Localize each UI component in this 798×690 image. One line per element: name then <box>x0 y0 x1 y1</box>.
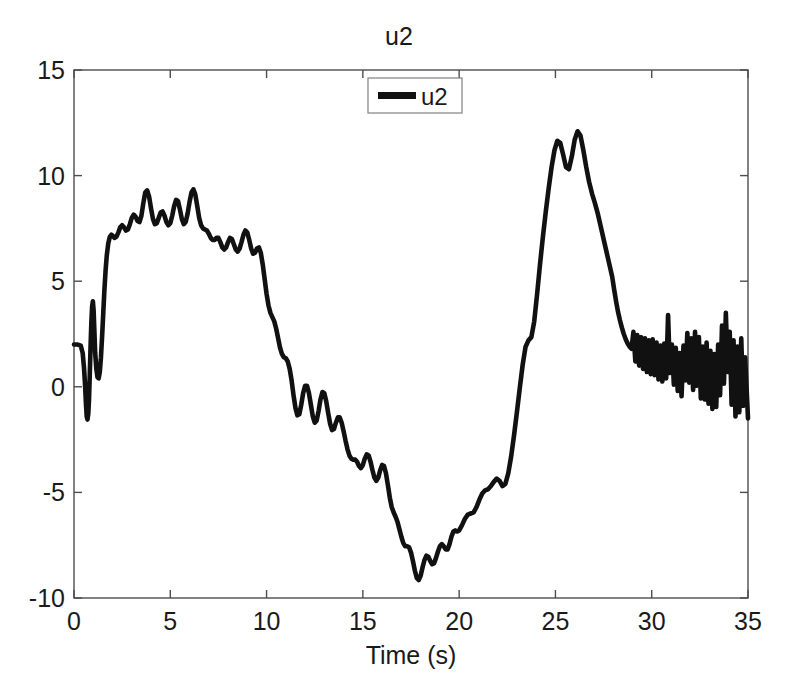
x-tick-label: 35 <box>734 607 762 635</box>
figure-canvas: u2 05101520253035-10-5051015Time (s)u2 <box>0 0 798 690</box>
y-tick-label: -10 <box>29 584 65 612</box>
chart-plot-area: 05101520253035-10-5051015Time (s)u2 <box>0 0 798 690</box>
x-tick-label: 15 <box>349 607 377 635</box>
legend-label: u2 <box>421 83 448 110</box>
y-tick-label: -5 <box>43 478 65 506</box>
x-tick-label: 20 <box>445 607 473 635</box>
y-tick-label: 10 <box>37 162 65 190</box>
x-tick-label: 0 <box>67 607 81 635</box>
x-tick-label: 30 <box>638 607 666 635</box>
series-line-u2 <box>74 131 748 580</box>
x-tick-label: 5 <box>163 607 177 635</box>
x-axis-title: Time (s) <box>366 641 457 669</box>
y-tick-label: 0 <box>51 373 65 401</box>
x-tick-label: 25 <box>542 607 570 635</box>
axes-box <box>74 70 748 598</box>
y-tick-label: 5 <box>51 267 65 295</box>
legend: u2 <box>368 78 462 113</box>
x-tick-label: 10 <box>253 607 281 635</box>
y-tick-label: 15 <box>37 56 65 84</box>
